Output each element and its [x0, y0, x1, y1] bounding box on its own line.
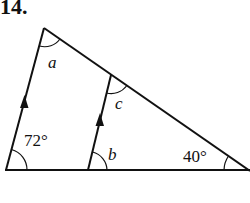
arc-40 — [224, 156, 229, 170]
arrow-inner-icon — [96, 113, 105, 126]
arc-72 — [12, 150, 28, 171]
parallel-arrows — [20, 95, 104, 126]
label-b: b — [108, 145, 117, 164]
arc-c — [107, 86, 127, 94]
arc-b — [93, 152, 108, 170]
label-40: 40° — [183, 147, 207, 166]
label-72: 72° — [24, 131, 48, 150]
arrow-left-icon — [20, 95, 29, 108]
label-a: a — [48, 53, 57, 72]
triangle-diagram: a c b 72° 40° — [0, 0, 250, 203]
label-c: c — [115, 94, 123, 113]
arc-a — [40, 39, 61, 47]
hypotenuse — [44, 28, 250, 171]
